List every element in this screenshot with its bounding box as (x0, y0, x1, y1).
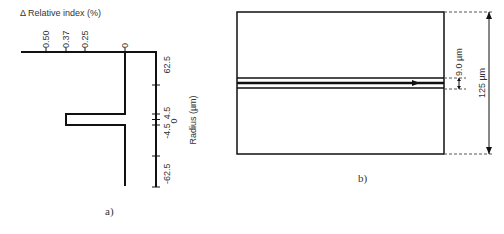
panel-b-fiber-cross-section: 9.0 µm 125 µm b) (237, 12, 494, 185)
index-profile-line (66, 52, 125, 186)
x-tick-0: 0 (120, 43, 130, 48)
y-axis-title: Radius (µm) (188, 95, 198, 144)
cladding-diameter-label: 125 µm (477, 68, 487, 98)
x-axis-title: Δ Relative index (%) (20, 8, 101, 18)
arrow-icon (412, 80, 420, 86)
core-diameter-label: 9.0 µm (454, 48, 464, 76)
x-tick-0.50: 0.50 (41, 30, 51, 48)
y-tick-0: 0 (169, 118, 179, 123)
y-tick-4.5: 4.5 (162, 107, 172, 120)
y-tick-neg4.5: -4.5 (162, 123, 172, 139)
caption-a: a) (105, 205, 114, 218)
figure: Δ Relative index (%) 0.50 0.37 0.25 0 62… (0, 0, 504, 234)
panel-a-index-profile: Δ Relative index (%) 0.50 0.37 0.25 0 62… (20, 8, 198, 218)
caption-b: b) (358, 172, 368, 185)
x-tick-0.37: 0.37 (61, 30, 71, 48)
y-tick-neg62.5: -62.5 (162, 163, 172, 184)
y-tick-62.5: 62.5 (162, 56, 172, 74)
x-tick-0.25: 0.25 (80, 30, 90, 48)
